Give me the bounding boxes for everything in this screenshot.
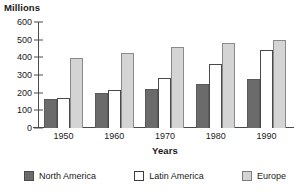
bar-europe-1950 bbox=[70, 58, 83, 128]
y-axis-tick-label: 200 bbox=[2, 88, 32, 98]
bar-north-america-1990 bbox=[247, 79, 260, 128]
y-axis-tick-label: 400 bbox=[2, 52, 32, 62]
bar-latin-america-1990 bbox=[260, 50, 273, 128]
y-axis-tick-label: 0 bbox=[2, 123, 32, 133]
bar-north-america-1960 bbox=[95, 93, 108, 128]
bar-latin-america-1960 bbox=[108, 90, 121, 128]
x-axis-tick-label-1970: 1970 bbox=[140, 131, 191, 141]
bar-group-1970 bbox=[140, 22, 191, 128]
bar-group-1950 bbox=[38, 22, 89, 128]
legend-swatch-latin-america bbox=[134, 171, 144, 181]
bar-group-1960 bbox=[89, 22, 140, 128]
legend-swatch-north-america bbox=[24, 171, 34, 181]
legend-item-latin-america: Latin America bbox=[134, 171, 204, 181]
x-axis-tick-label-1960: 1960 bbox=[89, 131, 140, 141]
chart-legend: North AmericaLatin AmericaEurope bbox=[24, 171, 286, 181]
y-axis-title: Millions bbox=[4, 2, 40, 13]
bar-latin-america-1950 bbox=[57, 98, 70, 128]
bar-groups bbox=[38, 22, 292, 128]
bar-north-america-1970 bbox=[145, 89, 158, 128]
bar-latin-america-1980 bbox=[209, 64, 222, 128]
bar-europe-1970 bbox=[171, 47, 184, 128]
legend-label-latin-america: Latin America bbox=[149, 172, 204, 181]
legend-label-north-america: North America bbox=[39, 172, 96, 181]
bar-group-1980 bbox=[190, 22, 241, 128]
bar-latin-america-1970 bbox=[158, 78, 171, 128]
y-axis-tick-label: 600 bbox=[2, 17, 32, 27]
y-axis-tick-label: 500 bbox=[2, 35, 32, 45]
legend-item-north-america: North America bbox=[24, 171, 96, 181]
x-axis-title: Years bbox=[38, 145, 292, 156]
bar-europe-1980 bbox=[222, 43, 235, 128]
legend-swatch-europe bbox=[242, 171, 252, 181]
x-axis-tick-labels: 19501960197019801990 bbox=[38, 131, 292, 141]
x-axis-tick-label-1990: 1990 bbox=[241, 131, 292, 141]
y-axis-tick-label: 300 bbox=[2, 70, 32, 80]
bar-europe-1990 bbox=[273, 40, 286, 128]
bar-chart: Millions 6005004003002001000 19501960197… bbox=[0, 0, 299, 195]
bar-europe-1960 bbox=[121, 53, 134, 128]
x-axis-tick-label-1980: 1980 bbox=[190, 131, 241, 141]
x-axis-tick-label-1950: 1950 bbox=[38, 131, 89, 141]
y-axis-tick-label: 100 bbox=[2, 105, 32, 115]
bar-north-america-1950 bbox=[44, 99, 57, 128]
legend-item-europe: Europe bbox=[242, 171, 286, 181]
plot-area: 6005004003002001000 bbox=[38, 22, 292, 128]
bar-group-1990 bbox=[241, 22, 292, 128]
legend-label-europe: Europe bbox=[257, 172, 286, 181]
bar-north-america-1980 bbox=[196, 84, 209, 128]
